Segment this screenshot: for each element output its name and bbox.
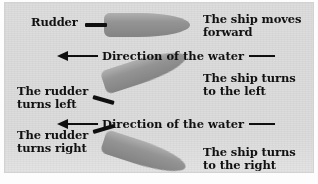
- rudder-centered: [85, 23, 107, 27]
- label-rudder-turns-left: The rudder turns left: [17, 85, 88, 110]
- arrow-shaft-left: [68, 55, 98, 57]
- arrow-shaft-right: [249, 55, 275, 57]
- arrow-shaft-left: [68, 123, 98, 125]
- label-ship-turns-left: The ship turns to the left: [203, 72, 296, 97]
- ship-hull-forward: [104, 13, 190, 37]
- water-direction-text: Direction of the water: [102, 117, 244, 131]
- label-rudder-turns-right: The rudder turns right: [17, 129, 88, 154]
- water-direction-row-2: Direction of the water: [57, 117, 275, 131]
- diagram-plate: Rudder The ship moves forward Direction …: [5, 3, 313, 172]
- water-direction-row-1: Direction of the water: [57, 49, 275, 63]
- rudder-turned-left: [93, 95, 115, 104]
- arrow-shaft-right: [249, 123, 275, 125]
- hull-sheen: [104, 13, 190, 37]
- ship-hull-turn-right: [100, 129, 189, 172]
- label-rudder: Rudder: [31, 16, 78, 29]
- arrow-left-icon: [57, 51, 68, 61]
- figure-root: Rudder The ship moves forward Direction …: [0, 0, 318, 184]
- hull-sheen: [100, 129, 189, 172]
- label-ship-turns-right: The ship turns to the right: [203, 146, 296, 171]
- water-direction-text: Direction of the water: [102, 49, 244, 63]
- label-ship-moves-forward: The ship moves forward: [203, 13, 301, 38]
